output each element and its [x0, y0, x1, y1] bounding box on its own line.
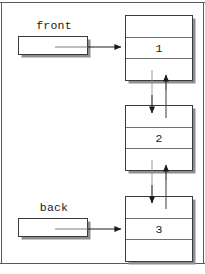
figure-left-rule — [1, 2, 2, 264]
list-node-3-top-cell — [126, 197, 192, 218]
pointer-front-label: front — [18, 19, 90, 33]
list-node-1-bottom-cell — [126, 59, 192, 80]
list-node-3: 3 — [125, 196, 193, 262]
pointer-back-box — [18, 218, 88, 237]
figure-top-rule — [0, 2, 205, 3]
list-node-2-top-cell — [126, 106, 192, 127]
list-node-1-value: 1 — [126, 37, 192, 60]
list-node-2: 2 — [125, 105, 193, 171]
list-node-2-value: 2 — [126, 127, 192, 150]
list-node-3-value: 3 — [126, 218, 192, 241]
figure-bottom-rule — [0, 263, 205, 264]
list-node-3-bottom-cell — [126, 240, 192, 261]
pointer-front-box — [18, 36, 88, 55]
linked-list-diagram: front back 1 2 3 — [0, 0, 205, 274]
figure-right-rule — [203, 2, 204, 264]
list-node-1-top-cell — [126, 16, 192, 37]
list-node-2-bottom-cell — [126, 149, 192, 170]
pointer-back-label: back — [18, 201, 90, 215]
list-node-1: 1 — [125, 15, 193, 81]
